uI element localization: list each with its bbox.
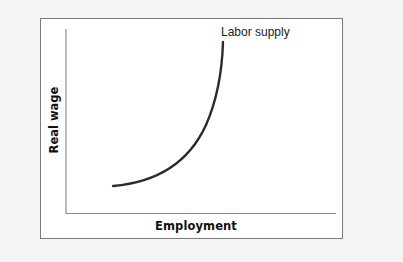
x-axis-label: Employment [150, 219, 242, 233]
labor-supply-curve [113, 42, 223, 186]
labor-supply-label: Labor supply [221, 25, 290, 39]
y-axis-label: Real wage [47, 87, 61, 154]
